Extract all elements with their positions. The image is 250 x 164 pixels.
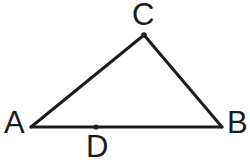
vertex-label-a: A [4, 107, 25, 138]
vertex-label-c: C [132, 0, 154, 30]
triangle-diagram: A B C D [0, 0, 250, 164]
triangle-edges [31, 35, 222, 127]
vertex-label-b: B [227, 107, 248, 138]
vertex-label-d: D [86, 131, 108, 162]
segment-BC [144, 35, 222, 127]
segment-AC [31, 35, 144, 127]
point-marker-C [141, 32, 147, 38]
vertex-dots [93, 32, 146, 129]
triangle-svg-canvas [0, 0, 250, 164]
